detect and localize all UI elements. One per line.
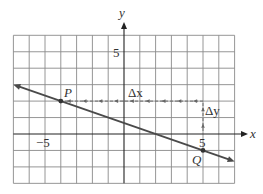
arrowhead-left-icon: [193, 99, 197, 103]
plot-canvas: y x 5 −5 5 P Q Δx Δy: [0, 0, 263, 194]
arrowhead-left-icon: [162, 99, 166, 103]
arrowhead-left-icon: [177, 99, 181, 103]
x-axis-arrow-icon: [241, 131, 248, 137]
x-tick-label-neg5: −5: [36, 135, 50, 150]
x-tick-label-5: 5: [199, 135, 206, 150]
delta-y-label: Δy: [205, 103, 220, 118]
point-p-dot: [58, 99, 63, 104]
arrowhead-left-icon: [83, 99, 87, 103]
y-axis-label: y: [117, 5, 125, 20]
arrowhead-left-icon: [98, 99, 102, 103]
y-axis-arrow-icon: [121, 22, 127, 29]
line-arrow-right-icon: [227, 156, 235, 162]
y-tick-label-5: 5: [113, 45, 120, 60]
arrowhead-up-icon: [201, 124, 205, 128]
arrowhead-left-icon: [146, 99, 150, 103]
point-q-label: Q: [192, 152, 202, 167]
delta-x-label: Δx: [128, 85, 143, 100]
point-p-label: P: [63, 85, 72, 100]
x-axis-label: x: [249, 126, 256, 141]
arrowhead-left-icon: [114, 99, 118, 103]
coordinate-plane-figure: y x 5 −5 5 P Q Δx Δy: [0, 0, 263, 194]
line-arrow-left-icon: [13, 84, 21, 90]
